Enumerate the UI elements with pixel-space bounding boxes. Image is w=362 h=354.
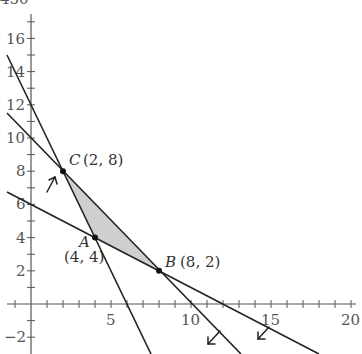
point-a xyxy=(92,235,98,241)
point-a-coords: (4, 4) xyxy=(64,248,104,266)
point-c-name: C xyxy=(69,151,81,169)
point-b-coords: (8, 2) xyxy=(180,253,220,271)
constraint-line-y-6-minus-half-x xyxy=(7,192,319,354)
y-tick-label-4: 4 xyxy=(16,229,26,247)
direction-arrow-down-left-icon xyxy=(208,331,220,344)
point-c-coords: (2, 8) xyxy=(83,151,123,169)
point-c xyxy=(60,168,66,174)
y-label-top-cut: 450 xyxy=(0,0,29,8)
y-tick-label-16: 16 xyxy=(6,30,25,48)
x-tick-label-15: 15 xyxy=(261,311,280,329)
y-tick-label-minus-2: −2 xyxy=(4,328,26,346)
direction-arrow-up-right-icon xyxy=(47,177,57,192)
point-b-name: B xyxy=(164,253,176,271)
x-tick-label-5: 5 xyxy=(106,311,116,329)
y-tick-label-8: 8 xyxy=(16,162,26,180)
y-tick-label-10: 10 xyxy=(6,129,25,147)
x-tick-label-10: 10 xyxy=(181,311,200,329)
constraint-line-y-10-minus-x xyxy=(7,113,241,354)
x-tick-label-20: 20 xyxy=(341,311,360,329)
y-tick-label-2: 2 xyxy=(16,262,26,280)
linear-programming-chart: 450 16 14 12 10 8 6 4 2 −2 5 10 15 20 C … xyxy=(0,0,362,354)
point-b xyxy=(156,268,162,274)
y-tick-label-12: 12 xyxy=(6,96,25,114)
